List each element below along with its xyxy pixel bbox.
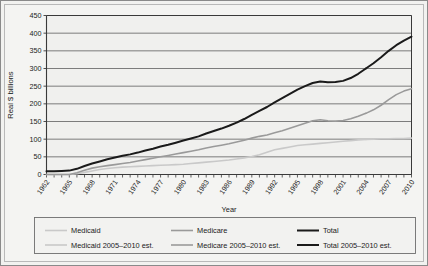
x-tick-label: 1983	[194, 178, 211, 196]
legend-label: Total 2005–2010 est.	[323, 241, 392, 250]
x-axis-title: Year	[222, 205, 237, 214]
x-tick-label: 2010	[400, 178, 417, 196]
line-chart: 0501001502002503003504004501962196519681…	[1, 1, 428, 266]
x-tick-label: 1971	[103, 178, 120, 196]
legend-label: Medicaid	[71, 226, 101, 235]
x-tick-label: 2007	[377, 178, 394, 196]
y-tick-label: 200	[30, 99, 42, 108]
x-tick-label: 1965	[58, 178, 75, 196]
x-tick-label: 1977	[149, 178, 166, 196]
x-tick-label: 1989	[240, 178, 257, 196]
x-tick-label: 1980	[172, 178, 189, 196]
y-tick-label: 450	[30, 11, 42, 20]
y-axis-title: Real $ billions	[6, 71, 15, 118]
x-tick-label: 1962	[35, 178, 52, 196]
legend-label: Total	[323, 226, 339, 235]
x-tick-label: 1968	[80, 178, 97, 196]
x-tick-label: 1992	[263, 178, 280, 196]
legend-label: Medicaid 2005–2010 est.	[71, 241, 154, 250]
y-tick-label: 0	[38, 170, 42, 179]
x-tick-label: 2001	[331, 178, 348, 196]
x-tick-label: 1995	[286, 178, 303, 196]
y-tick-label: 150	[30, 117, 42, 126]
x-tick-label: 1974	[126, 178, 143, 196]
y-tick-label: 350	[30, 46, 42, 55]
x-tick-label: 1986	[217, 178, 234, 196]
x-tick-label: 2004	[354, 178, 371, 196]
legend-label: Medicare 2005–2010 est.	[197, 241, 280, 250]
y-tick-label: 250	[30, 82, 42, 91]
x-tick-label: 1998	[309, 178, 326, 196]
y-tick-label: 100	[30, 135, 42, 144]
chart-figure: 0501001502002503003504004501962196519681…	[0, 0, 428, 266]
legend-label: Medicare	[197, 226, 227, 235]
y-tick-label: 300	[30, 64, 42, 73]
y-tick-label: 50	[34, 152, 42, 161]
plot-area	[47, 16, 412, 175]
y-tick-label: 400	[30, 29, 42, 38]
